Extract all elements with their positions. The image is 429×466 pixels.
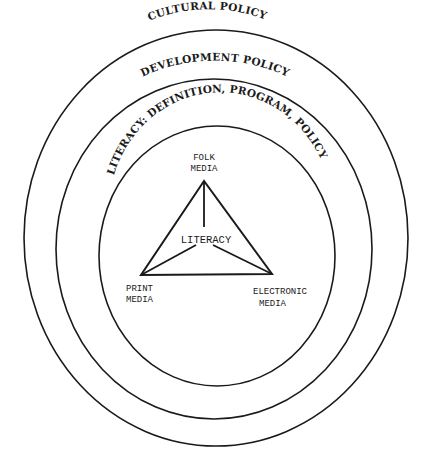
svg-text:CULTURAL POLICY: CULTURAL POLICY [146,0,269,23]
folk-media-line1: FOLK [193,153,215,163]
print-media-spoke [141,245,196,275]
literacy-center-label: LITERACY [181,234,232,246]
electronic-media-label: ELECTRONIC MEDIA [253,287,308,309]
literacy-policy-label: LITERACY: DEFINITION, PROGRAM, POLICY [104,82,330,176]
folk-media-label: FOLK MEDIA [190,153,218,174]
print-media-label: PRINT MEDIA [126,284,154,305]
development-policy-ellipse [56,79,372,419]
print-media-line1: PRINT [126,284,154,294]
cultural-policy-label: CULTURAL POLICY [146,0,269,23]
svg-text:LITERACY: DEFINITION, PROGRAM,: LITERACY: DEFINITION, PROGRAM, POLICY [104,82,330,176]
electronic-media-line1: ELECTRONIC [253,287,308,297]
print-media-line2: MEDIA [126,295,154,305]
media-triangle: LITERACY [141,181,272,275]
development-policy-label: DEVELOPMENT POLICY [139,51,292,79]
triangle-outline [141,181,272,275]
electronic-media-spoke [213,245,272,274]
folk-media-line2: MEDIA [190,164,218,174]
svg-text:DEVELOPMENT POLICY: DEVELOPMENT POLICY [139,51,292,79]
literacy-policy-diagram: CULTURAL POLICY DEVELOPMENT POLICY LITER… [0,0,429,466]
electronic-media-line2: MEDIA [259,299,287,309]
cultural-policy-ring: CULTURAL POLICY [24,0,408,446]
